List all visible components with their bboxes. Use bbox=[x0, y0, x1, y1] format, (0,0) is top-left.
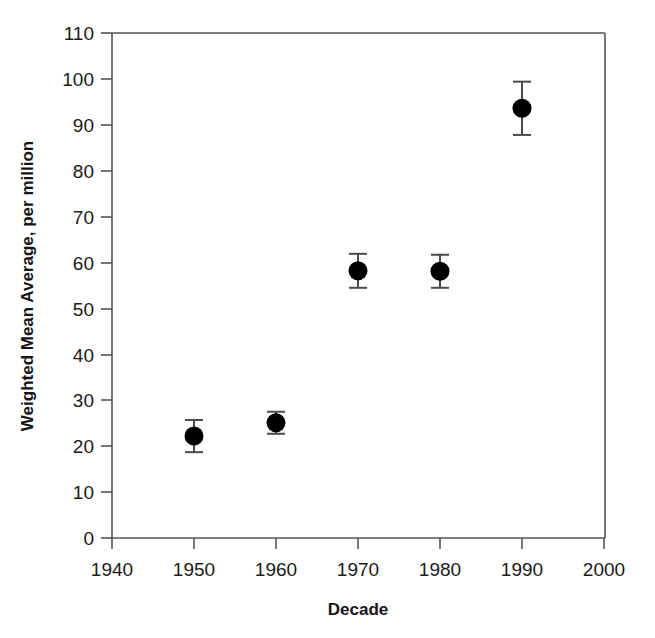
x-tick-label: 1940 bbox=[91, 559, 133, 580]
scatter-chart-figure: 110 100 90 80 70 60 50 40 30 20 10 0 194… bbox=[0, 0, 655, 638]
x-tick-label: 1990 bbox=[501, 559, 543, 580]
x-tick-label: 2000 bbox=[583, 559, 625, 580]
y-tick-label: 70 bbox=[73, 207, 94, 228]
data-point-marker bbox=[185, 427, 204, 446]
y-tick-label: 50 bbox=[73, 299, 94, 320]
y-tick-label: 90 bbox=[73, 115, 94, 136]
y-tick-label: 100 bbox=[62, 69, 94, 90]
x-tick-label: 1950 bbox=[173, 559, 215, 580]
x-tick-label: 1970 bbox=[337, 559, 379, 580]
data-point-marker bbox=[513, 99, 532, 118]
y-tick-label: 80 bbox=[73, 161, 94, 182]
y-tick-label: 60 bbox=[73, 253, 94, 274]
y-tick-label: 30 bbox=[73, 390, 94, 411]
y-tick-label: 10 bbox=[73, 482, 94, 503]
x-tick-label: 1980 bbox=[419, 559, 461, 580]
data-point-marker bbox=[349, 261, 368, 280]
data-point-marker bbox=[267, 413, 286, 432]
data-point-marker bbox=[431, 262, 450, 281]
y-tick-label: 110 bbox=[64, 23, 94, 44]
y-tick-label: 0 bbox=[83, 528, 94, 549]
y-tick-label: 20 bbox=[73, 436, 94, 457]
x-tick-label: 1960 bbox=[255, 559, 297, 580]
figure-background bbox=[0, 0, 655, 638]
y-tick-label: 40 bbox=[73, 345, 94, 366]
y-axis-title: Weighted Mean Average, per million bbox=[18, 141, 37, 431]
x-axis-title: Decade bbox=[328, 600, 388, 619]
